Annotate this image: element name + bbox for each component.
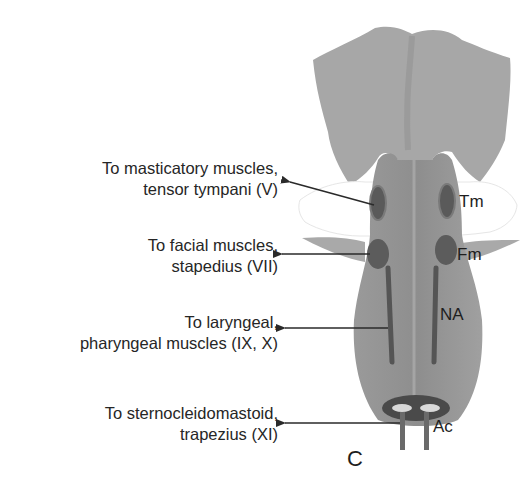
callout-line: tensor tympani (V)	[102, 179, 278, 200]
label-na: NA	[440, 306, 464, 324]
callout-line: To facial muscles,	[148, 235, 278, 256]
trigeminal-motor-nucleus-left	[370, 186, 386, 220]
callout-ambiguus-label: To laryngeal, pharyngeal muscles (IX, X)	[80, 312, 278, 354]
callout-line: To laryngeal,	[80, 312, 278, 333]
nucleus-ambiguus-right	[434, 268, 436, 362]
callout-line: trapezius (XI)	[105, 424, 278, 445]
accessory-nerve-right	[424, 412, 429, 450]
facial-motor-nucleus-left	[367, 239, 389, 269]
callout-line: stapedius (VII)	[148, 256, 278, 277]
callout-line: To sternocleidomastoid,	[105, 403, 278, 424]
callout-trigeminal-label: To masticatory muscles, tensor tympani (…	[102, 158, 278, 200]
callout-line: To masticatory muscles,	[102, 158, 278, 179]
callout-line: pharyngeal muscles (IX, X)	[80, 333, 278, 354]
facial-motor-nucleus-right	[435, 235, 457, 265]
brainstem-motor-nuclei-diagram: To masticatory muscles, tensor tympani (…	[0, 0, 532, 492]
label-ac: Ac	[433, 418, 453, 436]
accessory-nerve-left	[400, 412, 405, 450]
label-tm: Tm	[459, 193, 484, 211]
label-fm: Fm	[457, 246, 482, 264]
trigeminal-motor-nucleus-right	[439, 184, 455, 218]
panel-letter: C	[347, 446, 363, 472]
callout-accessory-label: To sternocleidomastoid, trapezius (XI)	[105, 403, 278, 445]
callout-facial-label: To facial muscles, stapedius (VII)	[148, 235, 278, 277]
